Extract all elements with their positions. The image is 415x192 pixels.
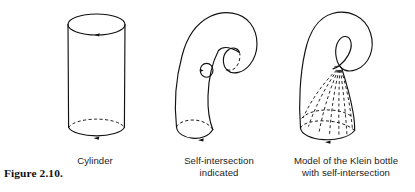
- cylinder-top-ellipse: [68, 14, 125, 35]
- panel-caption-klein-bottle: Model of the Klein bottle with self-inte…: [281, 155, 411, 178]
- klein-fan-line-5: [340, 70, 347, 136]
- cylinder-left-side-line: [68, 25, 69, 128]
- selfint-outer-wall: [175, 13, 257, 127]
- figure-number-label: Figure 2.10.: [4, 167, 63, 179]
- klein-bottom-orientation-arrow: [325, 140, 331, 143]
- panel-caption-cylinder: Cylinder: [52, 155, 138, 167]
- cylinder-bottom-orientation-arrow: [94, 136, 100, 139]
- panel-self-intersection-drawing: [175, 13, 257, 142]
- klein-neck-loop: [333, 36, 351, 68]
- selfint-right-wall: [208, 51, 219, 130]
- cylinder-right-side-line: [124, 25, 125, 128]
- figure-2-10: Cylinder Self-intersection indicated Mod…: [0, 0, 415, 192]
- cylinder-bottom-back-arc: [69, 119, 125, 127]
- panel-klein-bottle-drawing: [300, 12, 373, 144]
- selfint-inner-end-dashed-arc: [227, 53, 240, 71]
- cylinder-top-orientation-arrow: [94, 33, 99, 36]
- selfint-bottom-orientation-arrow: [198, 138, 204, 141]
- klein-fan-line-1: [309, 70, 338, 127]
- klein-fan-line-2: [319, 70, 338, 133]
- selfint-bottom-back-arc: [177, 120, 213, 130]
- selfint-bottom-front-arc: [177, 127, 213, 138]
- klein-fan-line-4: [339, 70, 340, 137]
- panel-caption-self-intersection: Self-intersection indicated: [163, 155, 275, 178]
- selfint-puncture-arrow: [200, 69, 204, 72]
- panel-cylinder-drawing: [68, 14, 125, 140]
- cylinder-bottom-front-arc: [69, 128, 125, 136]
